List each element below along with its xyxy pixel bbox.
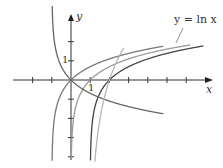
y-tick-label-1: 1 bbox=[62, 55, 68, 65]
y-axis-label: y bbox=[76, 11, 82, 22]
figure: y x 1 1 y = ln x bbox=[0, 0, 223, 168]
y-axis-arrow-icon bbox=[68, 14, 74, 21]
annotation-leader bbox=[176, 28, 183, 43]
curve-annotation: y = ln x bbox=[174, 14, 217, 25]
curve-lnx1 bbox=[90, 46, 203, 160]
curve-lnx1 bbox=[52, 46, 163, 160]
x-axis-label: x bbox=[206, 84, 212, 95]
curve-lnx bbox=[71, 45, 190, 159]
x-tick-label-1: 1 bbox=[88, 83, 94, 93]
